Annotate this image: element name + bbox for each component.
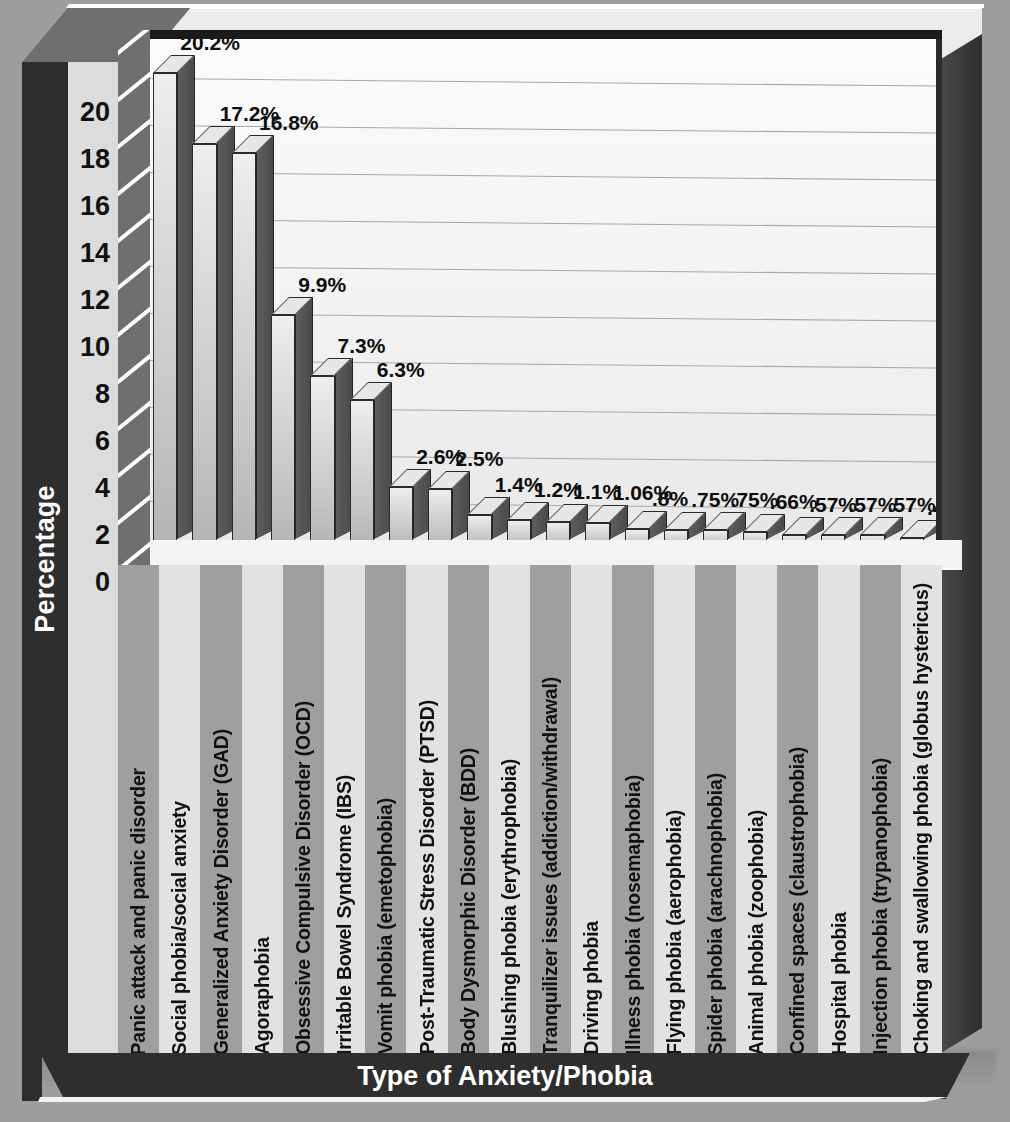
x-axis-category-label: Irritable Bowel Syndrome (IBS) <box>333 769 356 1055</box>
bar[interactable] <box>310 376 334 548</box>
bar-value-label: 9.9% <box>298 273 346 297</box>
chart-box-top-highlight <box>22 4 984 8</box>
x-axis-category[interactable]: Injection phobia (trypanophobia) <box>860 565 901 1055</box>
bar[interactable] <box>428 489 452 548</box>
category-label-wrap: Animal phobia (zoophobia) <box>736 565 777 1055</box>
x-axis-category[interactable]: Panic attack and panic disorder <box>118 565 159 1055</box>
category-label-wrap: Body Dysmorphic Disorder (BDD) <box>448 565 489 1055</box>
plot-right-edge <box>936 39 942 550</box>
category-label-wrap: Generalized Anxiety Disorder (GAD) <box>200 565 241 1055</box>
y-axis-tick-label: 8 <box>95 379 110 410</box>
bar-front-face <box>271 315 295 548</box>
bar-value-label: 6.3% <box>377 358 425 382</box>
category-label-wrap: Flying phobia (aerophobia) <box>654 565 695 1055</box>
x-axis-category-label: Illness phobia (nosemaphobia) <box>622 769 645 1055</box>
bar-front-face <box>389 487 413 548</box>
x-axis-category[interactable]: Body Dysmorphic Disorder (BDD) <box>448 565 489 1055</box>
bar[interactable] <box>232 153 256 548</box>
y-axis-tick-label: 6 <box>95 426 110 457</box>
y-axis-tick-label: 0 <box>95 567 110 598</box>
x-axis-category[interactable]: Blushing phobia (erythrophobia) <box>489 565 530 1055</box>
bar-value-label: 20.2% <box>180 39 240 55</box>
category-label-wrap: Driving phobia <box>571 565 612 1055</box>
bar-front-face <box>232 153 256 548</box>
x-axis-category[interactable]: Spider phobia (arachnophobia) <box>695 565 736 1055</box>
chart-root: Percentage 20181614121086420 20.2%17.2%1… <box>0 0 1010 1122</box>
x-axis-category-label: Flying phobia (aerophobia) <box>663 804 686 1055</box>
x-axis-category[interactable]: Irritable Bowel Syndrome (IBS) <box>324 565 365 1055</box>
y-axis-tick-panel: 20181614121086420 <box>68 62 118 1056</box>
x-axis-category[interactable]: Choking and swallowing phobia (globus hy… <box>901 565 942 1055</box>
category-label-wrap: Confined spaces (claustrophobia) <box>777 565 818 1055</box>
category-label-wrap: Vomit phobia (emetophobia) <box>365 565 406 1055</box>
x-axis-title-band: Type of Anxiety/Phobia <box>40 1053 970 1099</box>
category-label-wrap: Panic attack and panic disorder <box>118 565 159 1055</box>
plot-area: 20.2%17.2%16.8%9.9%7.3%6.3%2.6%2.5%1.4%1… <box>150 39 936 550</box>
x-axis-category-label: Blushing phobia (erythrophobia) <box>498 753 521 1055</box>
category-label-wrap: Choking and swallowing phobia (globus hy… <box>901 565 942 1055</box>
category-label-wrap: Illness phobia (nosemaphobia) <box>612 565 653 1055</box>
bar[interactable] <box>350 400 374 548</box>
y-axis-tick-label: 4 <box>95 473 110 504</box>
bar-value-label: 7.3% <box>338 334 386 358</box>
bar[interactable] <box>192 144 216 548</box>
y-axis-tick-label: 2 <box>95 520 110 551</box>
x-axis-category-strip: Panic attack and panic disorderSocial ph… <box>118 565 942 1055</box>
x-axis-title: Type of Anxiety/Phobia <box>357 1061 653 1092</box>
category-label-wrap: Agoraphobia <box>242 565 283 1055</box>
y-axis-tick-label: 18 <box>80 144 110 175</box>
x-axis-category[interactable]: Illness phobia (nosemaphobia) <box>612 565 653 1055</box>
x-axis-category-label: Obsessive Compulsive Disorder (OCD) <box>292 695 315 1055</box>
x-axis-category-label: Post-Traumatic Stress Disorder (PTSD) <box>416 694 439 1055</box>
bar-value-label: .8% <box>652 487 688 511</box>
y-axis-title: Percentage <box>22 62 68 1056</box>
bar[interactable] <box>153 73 177 548</box>
x-axis-category[interactable]: Animal phobia (zoophobia) <box>736 565 777 1055</box>
x-axis-category-label: Panic attack and panic disorder <box>127 762 150 1055</box>
x-axis-category-label: Agoraphobia <box>251 931 274 1055</box>
x-axis-category-label: Injection phobia (trypanophobia) <box>869 752 892 1055</box>
x-axis-category[interactable]: Vomit phobia (emetophobia) <box>365 565 406 1055</box>
x-axis-category-label: Hospital phobia <box>828 906 851 1055</box>
bar-front-face <box>350 400 374 548</box>
plot-top-rule <box>150 30 942 39</box>
x-axis-category-label: Confined spaces (claustrophobia) <box>786 741 809 1055</box>
bar[interactable] <box>271 315 295 548</box>
x-axis-category[interactable]: Confined spaces (claustrophobia) <box>777 565 818 1055</box>
floor-plate <box>150 540 962 568</box>
x-axis-band-highlight <box>38 1097 948 1102</box>
bar-front-face <box>153 73 177 548</box>
category-label-wrap: Irritable Bowel Syndrome (IBS) <box>324 565 365 1055</box>
category-label-wrap: Spider phobia (arachnophobia) <box>695 565 736 1055</box>
x-axis-category[interactable]: Agoraphobia <box>242 565 283 1055</box>
x-axis-category[interactable]: Flying phobia (aerophobia) <box>654 565 695 1055</box>
bar-front-face <box>192 144 216 548</box>
bar-value-label: .44% <box>927 496 936 520</box>
x-axis-category[interactable]: Tranquilizer issues (addiction/withdrawa… <box>530 565 571 1055</box>
x-axis-category[interactable]: Post-Traumatic Stress Disorder (PTSD) <box>406 565 447 1055</box>
category-label-wrap: Hospital phobia <box>818 565 859 1055</box>
x-axis-category[interactable]: Generalized Anxiety Disorder (GAD) <box>200 565 241 1055</box>
x-axis-category-label: Generalized Anxiety Disorder (GAD) <box>210 723 233 1055</box>
left-rail-bottom <box>22 1053 42 1101</box>
category-label-wrap: Tranquilizer issues (addiction/withdrawa… <box>530 565 571 1055</box>
x-axis-category[interactable]: Obsessive Compulsive Disorder (OCD) <box>283 565 324 1055</box>
category-label-wrap: Blushing phobia (erythrophobia) <box>489 565 530 1055</box>
bar-value-label: 16.8% <box>259 111 319 135</box>
x-axis-category-label: Driving phobia <box>580 915 603 1055</box>
gridline <box>150 78 936 87</box>
y-axis-tick-label: 10 <box>80 332 110 363</box>
bar-front-face <box>310 376 334 548</box>
y-axis-tick-label: 12 <box>80 285 110 316</box>
x-axis-category[interactable]: Driving phobia <box>571 565 612 1055</box>
bar-value-label: 2.5% <box>455 447 503 471</box>
bar-front-face <box>428 489 452 548</box>
x-axis-category[interactable]: Hospital phobia <box>818 565 859 1055</box>
y-axis-tick-label: 16 <box>80 191 110 222</box>
x-axis-category-label: Choking and swallowing phobia (globus hy… <box>910 577 933 1055</box>
category-label-wrap: Obsessive Compulsive Disorder (OCD) <box>283 565 324 1055</box>
category-label-wrap: Injection phobia (trypanophobia) <box>860 565 901 1055</box>
x-axis-category-label: Animal phobia (zoophobia) <box>745 804 768 1055</box>
x-axis-category[interactable]: Social phobia/social anxiety <box>159 565 200 1055</box>
bar[interactable] <box>389 487 413 548</box>
